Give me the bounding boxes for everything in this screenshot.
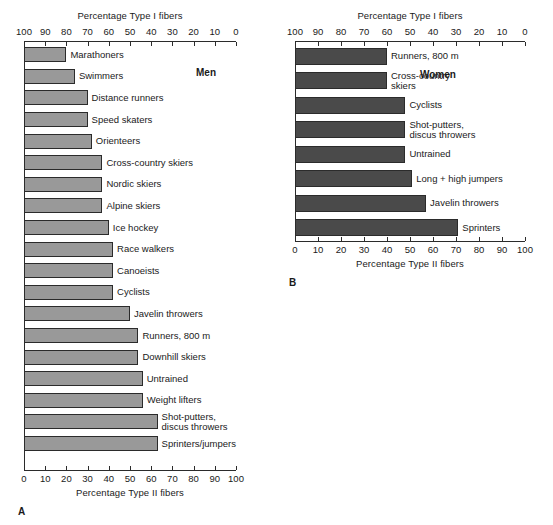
tick-label-bottom: 40 [382, 244, 393, 255]
tick-label-top: 90 [40, 26, 51, 37]
bar-label: Cyclists [117, 287, 150, 298]
bar-label: Shot-putters,discus throwers [409, 119, 475, 140]
tickmark-bottom [194, 466, 195, 470]
tickmark-bottom [215, 466, 216, 470]
tick-label-top: 10 [210, 26, 221, 37]
bar-label: Javelin throwers [430, 198, 499, 209]
tickmark-bottom [295, 237, 296, 241]
bar-label-line1: Untrained [147, 374, 188, 385]
bar-label-line1: Orienteers [96, 136, 140, 147]
tick-label-top: 0 [522, 26, 527, 37]
panel-a-letter: A [18, 506, 25, 517]
tick-label-bottom: 50 [405, 244, 416, 255]
bar-label: Cyclists [409, 100, 442, 111]
bar-row: Alpine skiers [0, 195, 280, 217]
tick-label-top: 50 [125, 26, 136, 37]
tickmark-bottom [433, 237, 434, 241]
chart-panel-b: Percentage Type I fibers 100908070605040… [280, 0, 553, 525]
bar-label-line1: Canoeists [117, 266, 159, 277]
bar-row: Sprinters [280, 216, 553, 241]
bar-label-line1: Javelin throwers [430, 198, 499, 209]
bar-label: Untrained [409, 149, 450, 160]
bar-label: Weight lifters [147, 395, 202, 406]
bar-row: Long + high jumpers [280, 167, 553, 192]
tickmark-bottom [364, 237, 365, 241]
tickmark-bottom [24, 466, 25, 470]
bar-label: Swimmers [79, 71, 123, 82]
bar-label-line1: Swimmers [79, 71, 123, 82]
bar-row: Swimmers [0, 66, 280, 88]
tick-label-bottom: 100 [228, 473, 244, 484]
bar-label-line1: Javelin throwers [134, 309, 203, 320]
panel-a-bottom-tick-labels: 0102030405060708090100 [0, 473, 280, 485]
bar [24, 285, 113, 300]
tickmark-bottom [236, 466, 237, 470]
bar-label-line1: Speed skaters [92, 114, 153, 125]
tick-label-bottom: 20 [61, 473, 72, 484]
tick-label-bottom: 30 [82, 473, 93, 484]
chart-panel-a: Percentage Type I fibers 100908070605040… [0, 0, 280, 525]
tick-label-bottom: 0 [21, 473, 26, 484]
tickmark-bottom [172, 466, 173, 470]
tick-label-top: 60 [382, 26, 393, 37]
tick-label-bottom: 90 [497, 244, 508, 255]
bar-label-line1: Runners, 800 m [391, 51, 459, 62]
tick-label-top: 30 [451, 26, 462, 37]
tick-label-bottom: 70 [451, 244, 462, 255]
tick-label-top: 10 [497, 26, 508, 37]
tickmark-bottom [109, 466, 110, 470]
tickmark-bottom [387, 237, 388, 241]
panel-b-letter: B [289, 277, 296, 288]
bar [24, 393, 143, 408]
panel-b-bottom-axis-line [295, 241, 525, 242]
bar [295, 121, 405, 138]
bar-row: Shot-putters,discus throwers [280, 118, 553, 143]
tick-label-top: 70 [82, 26, 93, 37]
tick-label-top: 40 [146, 26, 157, 37]
tickmark-bottom [318, 237, 319, 241]
bar-label: Distance runners [92, 93, 164, 104]
tickmark-bottom [45, 466, 46, 470]
bar-label-line2: discus throwers [162, 422, 228, 433]
bar-label-line1: Sprinters/jumpers [162, 438, 236, 449]
bar-row: Runners, 800 m [0, 325, 280, 347]
bar-label-line1: Shot-putters, [162, 411, 228, 422]
bar-row: Cyclists [280, 93, 553, 118]
panel-b-bottom-tick-labels: 0102030405060708090100 [280, 244, 553, 256]
panel-b-bottom-axis-title: Percentage Type II fibers [285, 258, 535, 269]
panel-a-top-axis-title: Percentage Type I fibers [14, 10, 246, 21]
bar-label-line1: Distance runners [92, 93, 164, 104]
bar [24, 69, 75, 84]
tickmark-bottom [151, 466, 152, 470]
bar [24, 90, 88, 105]
bar-row: Distance runners [0, 87, 280, 109]
tick-label-top: 80 [61, 26, 72, 37]
tick-label-bottom: 10 [313, 244, 324, 255]
bar [24, 220, 109, 235]
tickmark-bottom [88, 466, 89, 470]
bar-label-line1: Cross-country skiers [106, 158, 193, 169]
bar-label-line1: Nordic skiers [106, 179, 161, 190]
tick-label-top: 80 [336, 26, 347, 37]
tickmark-bottom [130, 466, 131, 470]
bar [24, 350, 138, 365]
bar-label-line1: Race walkers [117, 244, 174, 255]
panel-a-plot-area: MarathonersSwimmersDistance runnersSpeed… [0, 44, 280, 454]
bar-label: Long + high jumpers [416, 174, 502, 185]
bar-label: Alpine skiers [106, 201, 160, 212]
bar [295, 219, 458, 236]
tick-label-bottom: 80 [474, 244, 485, 255]
bar [24, 414, 158, 429]
bar-label-line1: Shot-putters, [409, 119, 475, 130]
tick-label-bottom: 60 [428, 244, 439, 255]
tick-label-bottom: 20 [336, 244, 347, 255]
tick-label-top: 40 [428, 26, 439, 37]
bar-row: Untrained [0, 368, 280, 390]
bar [24, 198, 102, 213]
bar-row: Race walkers [0, 238, 280, 260]
tick-label-top: 100 [16, 26, 32, 37]
tick-label-top: 60 [104, 26, 115, 37]
bar-label: Speed skaters [92, 114, 153, 125]
bar-label: Runners, 800 m [391, 51, 459, 62]
bar-row: Runners, 800 m [280, 44, 553, 69]
